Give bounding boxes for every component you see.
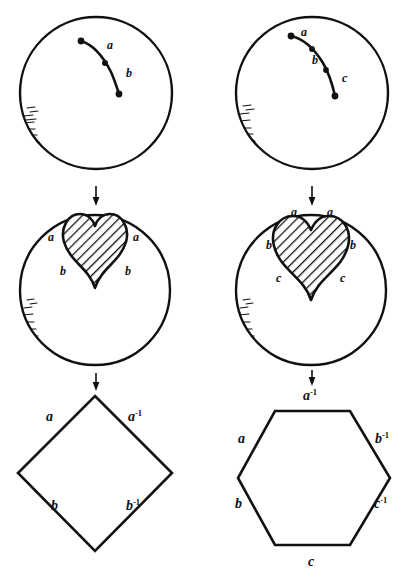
- arc-node-mid-left: [102, 60, 108, 66]
- sphere-middle-left: a b a b: [20, 214, 170, 377]
- heart-label-b-left-mr: b: [266, 238, 272, 252]
- arc-node-1-right: [288, 33, 295, 40]
- heart-label-c-left-mr: c: [276, 271, 282, 285]
- sphere-outline-top-left: [20, 17, 172, 169]
- arc-node-start-left: [78, 38, 85, 45]
- hexagon-edge-label-b: b: [235, 496, 242, 511]
- arrow-down-right-2: [309, 370, 316, 386]
- figure-svg: a b: [0, 0, 417, 574]
- heart-label-c-right-mr: c: [340, 271, 346, 285]
- sphere-outline-top-right: [236, 17, 388, 169]
- arc-node-3-right: [323, 67, 329, 73]
- figure-container: a b: [0, 0, 417, 574]
- sphere-top-right: a b c: [236, 17, 388, 183]
- sphere-middle-right: a b c a b c: [236, 205, 386, 376]
- polygon-hexagon: a-1 a b-1 b c-1 c: [235, 387, 390, 569]
- hexagon-edge-label-a: a: [238, 431, 245, 446]
- hexagon-edge-label-c-inverse: c-1: [374, 495, 387, 511]
- heart-label-a-right-mr: a: [327, 205, 333, 219]
- arc-label-a-top-left: a: [107, 38, 113, 52]
- square-edge-label-a-inverse: a-1: [128, 408, 142, 424]
- hexagon-edge-label-b-inverse: b-1: [375, 430, 389, 446]
- heart-label-a-left-ml: a: [48, 230, 54, 244]
- hexagon-edge-label-c: c: [308, 554, 315, 569]
- arrow-down-right-1: [309, 186, 316, 206]
- arc-node-2-right: [309, 46, 315, 52]
- square-edge-label-a: a: [46, 409, 53, 424]
- arc-label-c-top-right: c: [342, 71, 348, 85]
- arrow-down-left-1: [93, 186, 100, 206]
- square-outline: [18, 396, 172, 551]
- hexagon-outline: [238, 411, 390, 545]
- arc-node-4-right: [332, 93, 339, 100]
- hexagon-edge-label-a-inverse: a-1: [303, 387, 317, 403]
- heart-label-b-right-ml: b: [125, 264, 131, 278]
- heart-label-a-left-mr: a: [291, 205, 297, 219]
- arc-label-b-top-right: b: [312, 53, 318, 67]
- sphere-top-left: a b: [20, 17, 172, 184]
- arc-label-a-top-right: a: [301, 25, 307, 39]
- arc-label-b-top-left: b: [126, 66, 132, 80]
- polygon-square: a a-1 b b-1: [18, 396, 172, 551]
- heart-label-b-left-ml: b: [60, 264, 66, 278]
- arrow-down-left-2: [93, 373, 100, 391]
- heart-label-a-right-ml: a: [133, 230, 139, 244]
- heart-label-b-right-mr: b: [350, 238, 356, 252]
- square-edge-label-b: b: [51, 498, 58, 513]
- arc-node-end-left: [116, 91, 123, 98]
